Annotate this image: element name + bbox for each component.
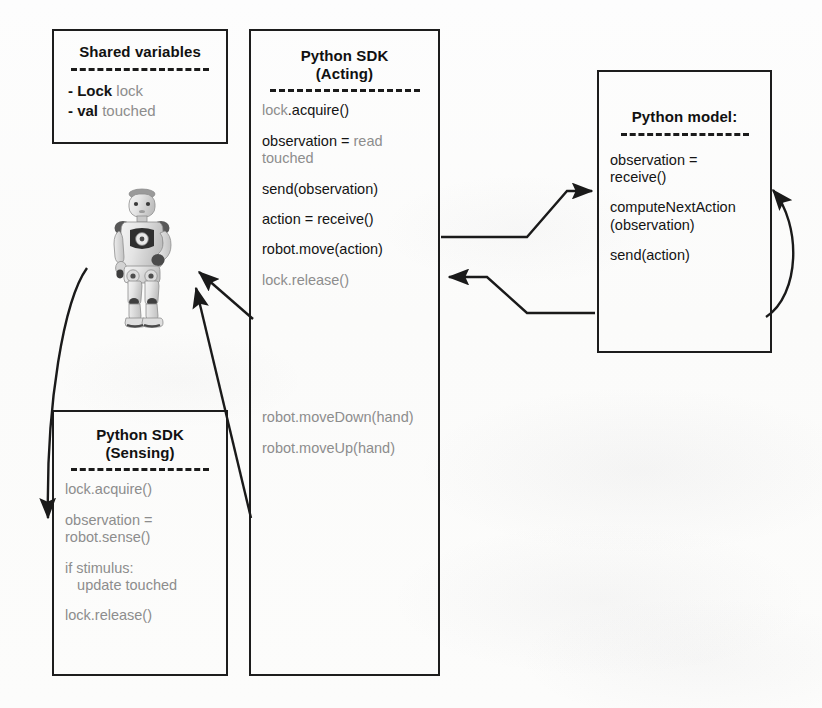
shared-variable-type: - val (68, 102, 98, 119)
connector-send-action (449, 277, 595, 313)
shared-variable-name: touched (102, 102, 155, 119)
connector-send-observation (441, 191, 592, 237)
shared-variables-divider (71, 68, 209, 71)
diagram-canvas: Shared variables - Lock lock - val touch… (0, 0, 822, 708)
connector-robot-move (199, 272, 253, 319)
acting-code-line: observation = read touched (262, 133, 429, 168)
model-code-line: send(action) (610, 247, 761, 264)
acting-code-line: robot.move(action) (262, 241, 429, 258)
python-model-box: Python model: observation = receive() co… (597, 70, 772, 353)
shared-variables-title: Shared variables (68, 43, 212, 61)
acting-code-line: send(observation) (262, 181, 429, 198)
acting-code-line: lock.acquire() (262, 102, 429, 119)
acting-divider (270, 89, 420, 92)
model-code-line: computeNextAction (observation) (610, 199, 761, 234)
shared-variables-box: Shared variables - Lock lock - val touch… (52, 29, 228, 144)
sensing-title-line1: Python SDK (54, 426, 226, 444)
sensing-code-line: lock.acquire() (65, 481, 217, 498)
shared-variable-row: - Lock lock (68, 81, 212, 101)
acting-code-line: lock.release() (262, 272, 429, 289)
acting-lower-code-line: robot.moveUp(hand) (262, 440, 429, 457)
acting-lower-code-line: robot.moveDown(hand) (262, 409, 429, 426)
sensing-code-line: observation = robot.sense() (65, 512, 217, 547)
sensing-code-line: if stimulus: update touched (65, 560, 217, 595)
python-sdk-acting-box: Python SDK (Acting) lock.acquire() obser… (249, 29, 440, 676)
model-divider (621, 133, 749, 136)
sensing-divider (71, 468, 209, 471)
python-sdk-sensing-box: Python SDK (Sensing) lock.acquire() obse… (52, 410, 228, 676)
shared-variable-row: - val touched (68, 101, 212, 121)
shared-variable-name: lock (116, 82, 143, 99)
sensing-code-line: lock.release() (65, 607, 217, 624)
acting-title-line2: (Acting) (251, 65, 438, 83)
model-code-line: observation = receive() (610, 152, 761, 187)
sensing-title-line2: (Sensing) (54, 444, 226, 462)
shared-variable-type: - Lock (68, 82, 112, 99)
model-title: Python model: (599, 108, 770, 126)
acting-title-line1: Python SDK (251, 47, 438, 65)
nao-robot-image (86, 184, 198, 330)
acting-code-line: action = receive() (262, 211, 429, 228)
